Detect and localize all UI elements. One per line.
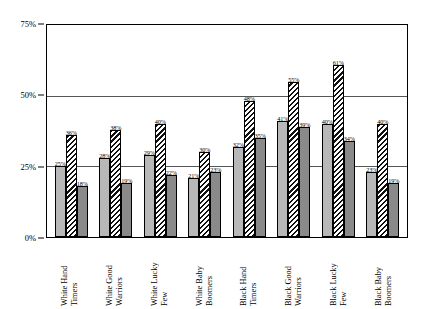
bar: 40% xyxy=(377,124,388,237)
x-axis-category-line: Black Good xyxy=(284,240,294,306)
bar-value-label: 28% xyxy=(99,152,110,159)
bar-wrapper: 61% xyxy=(333,25,344,237)
bar-value-label: 25% xyxy=(55,160,66,167)
bar-wrapper: 29% xyxy=(144,25,155,237)
bar-group: 25%36%18% xyxy=(49,25,94,237)
x-axis-category-line: Black Baby xyxy=(374,240,384,306)
bar-group: 32%48%35% xyxy=(227,25,272,237)
bar-wrapper: 35% xyxy=(255,25,266,237)
bar-wrapper: 48% xyxy=(244,25,255,237)
x-axis-category-line: Black Hand xyxy=(239,240,249,306)
x-axis-category-line: White Lucky xyxy=(150,240,160,306)
bar-value-label: 35% xyxy=(255,132,266,139)
bar-wrapper: 36% xyxy=(66,25,77,237)
bar-wrapper: 21% xyxy=(188,25,199,237)
bar-group: 40%61%34% xyxy=(316,25,361,237)
bar-chart: 75% 50% 25% 0% 25%36%18%28%38%19%29%40%2… xyxy=(0,0,421,309)
x-axis-category: Black HandTimers xyxy=(227,240,272,309)
x-axis-labels: White HandTimersWhite GoodWarriorsWhite … xyxy=(46,240,408,309)
bar: 28% xyxy=(99,158,110,237)
bar: 41% xyxy=(277,121,288,237)
x-axis-category: White GoodWarriors xyxy=(93,240,138,309)
bar-group: 29%40%22% xyxy=(138,25,183,237)
bar: 21% xyxy=(188,178,199,237)
y-tick-mark-25 xyxy=(38,166,44,167)
bar-group: 21%30%23% xyxy=(183,25,228,237)
bar-wrapper: 39% xyxy=(299,25,310,237)
bar-value-label: 40% xyxy=(377,118,388,125)
x-axis-category-line: Warriors xyxy=(294,240,304,306)
bar: 55% xyxy=(288,82,299,237)
x-axis-category-line: Boomers xyxy=(205,240,215,306)
bar-wrapper: 19% xyxy=(388,25,399,237)
x-axis-category-line: Few xyxy=(160,240,170,306)
y-tick-label-50: 50% xyxy=(20,91,36,100)
bar-wrapper: 38% xyxy=(110,25,121,237)
bar: 29% xyxy=(144,155,155,237)
bar-value-label: 32% xyxy=(233,141,244,148)
y-tick-mark-0 xyxy=(38,238,44,239)
bar: 35% xyxy=(255,138,266,237)
bar-value-label: 18% xyxy=(77,180,88,187)
bar: 22% xyxy=(166,175,177,237)
bar: 36% xyxy=(66,135,77,237)
bar-wrapper: 28% xyxy=(99,25,110,237)
y-tick-mark-75 xyxy=(38,24,44,25)
x-axis-category-line: White Baby xyxy=(195,240,205,306)
bar: 25% xyxy=(55,166,66,237)
bar-value-label: 23% xyxy=(210,166,221,173)
x-axis-category-line: Boomers xyxy=(384,240,394,306)
bar-wrapper: 40% xyxy=(377,25,388,237)
y-tick-label-25: 25% xyxy=(20,162,36,171)
bar-value-label: 21% xyxy=(188,172,199,179)
bar: 48% xyxy=(244,101,255,237)
bar: 40% xyxy=(155,124,166,237)
y-tick-label-0: 0% xyxy=(25,234,36,243)
x-axis-category-line: Black Lucky xyxy=(329,240,339,306)
bar-wrapper: 25% xyxy=(55,25,66,237)
bar-wrapper: 19% xyxy=(121,25,132,237)
bar-value-label: 61% xyxy=(333,59,344,66)
x-axis-category: White LuckyFew xyxy=(138,240,183,309)
bar: 23% xyxy=(366,172,377,237)
y-axis: 75% 50% 25% 0% xyxy=(0,24,44,238)
bar-wrapper: 55% xyxy=(288,25,299,237)
bar: 61% xyxy=(333,65,344,237)
bar-value-label: 19% xyxy=(388,177,399,184)
bar: 30% xyxy=(199,152,210,237)
x-axis-category: Black GoodWarriors xyxy=(272,240,317,309)
bar-value-label: 29% xyxy=(144,149,155,156)
bar: 18% xyxy=(77,186,88,237)
y-tick-label-75: 75% xyxy=(20,20,36,29)
bar-value-label: 41% xyxy=(277,115,288,122)
y-tick-mark-50 xyxy=(38,95,44,96)
bar-wrapper: 40% xyxy=(322,25,333,237)
bar-value-label: 22% xyxy=(166,169,177,176)
bar-value-label: 40% xyxy=(322,118,333,125)
bar-group: 23%40%19% xyxy=(361,25,406,237)
x-axis-category: White BabyBoomers xyxy=(182,240,227,309)
bar-wrapper: 30% xyxy=(199,25,210,237)
bar-value-label: 19% xyxy=(121,177,132,184)
x-axis-category-line: Timers xyxy=(70,240,80,306)
plot-area: 25%36%18%28%38%19%29%40%22%21%30%23%32%4… xyxy=(46,24,408,238)
bar-group: 41%55%39% xyxy=(272,25,317,237)
bar-wrapper: 40% xyxy=(155,25,166,237)
bar-wrapper: 32% xyxy=(233,25,244,237)
x-axis-category-line: White Good xyxy=(105,240,115,306)
bar-wrapper: 22% xyxy=(166,25,177,237)
bar-value-label: 40% xyxy=(155,118,166,125)
bar: 34% xyxy=(344,141,355,237)
x-axis-category: White HandTimers xyxy=(48,240,93,309)
x-axis-category-line: Timers xyxy=(249,240,259,306)
bar-wrapper: 34% xyxy=(344,25,355,237)
bar-value-label: 48% xyxy=(244,95,255,102)
bars-layer: 25%36%18%28%38%19%29%40%22%21%30%23%32%4… xyxy=(47,25,407,237)
bar-group: 28%38%19% xyxy=(94,25,139,237)
bar-wrapper: 23% xyxy=(366,25,377,237)
x-axis-category: Black LuckyFew xyxy=(317,240,362,309)
bar: 40% xyxy=(322,124,333,237)
bar-value-label: 23% xyxy=(366,166,377,173)
bar: 23% xyxy=(210,172,221,237)
bar: 39% xyxy=(299,127,310,237)
